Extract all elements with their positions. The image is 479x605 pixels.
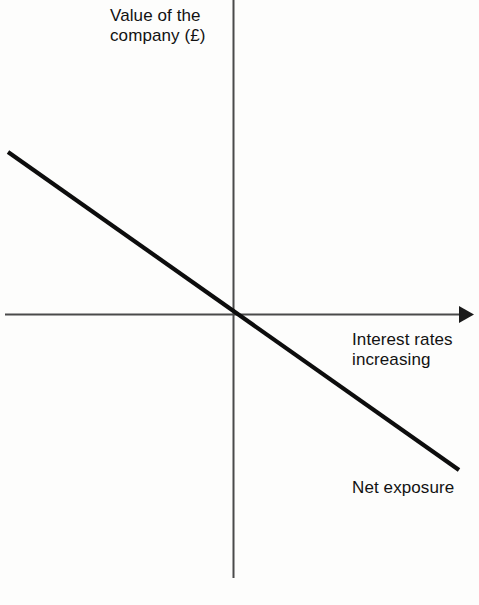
x-axis-title: Interest rates increasing — [352, 330, 453, 370]
chart-figure: Value of the company (£) Interest rates … — [0, 0, 479, 605]
series-label-net-exposure: Net exposure — [352, 478, 454, 498]
y-axis-title: Value of the company (£) — [110, 6, 206, 46]
chart-plot-area — [0, 0, 479, 605]
x-axis-arrowhead-icon — [459, 306, 474, 323]
